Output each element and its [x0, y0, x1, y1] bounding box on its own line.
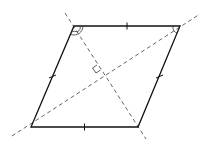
rhombus-diagram	[0, 0, 210, 152]
diagonal-line	[12, 14, 200, 136]
angle-arc-inner-icon	[78, 26, 81, 32]
angle-arc-top-right-lower-icon	[174, 31, 177, 33]
angle-arc-top-right-icon	[173, 26, 174, 31]
angle-arc-inner-left-icon	[72, 31, 78, 32]
